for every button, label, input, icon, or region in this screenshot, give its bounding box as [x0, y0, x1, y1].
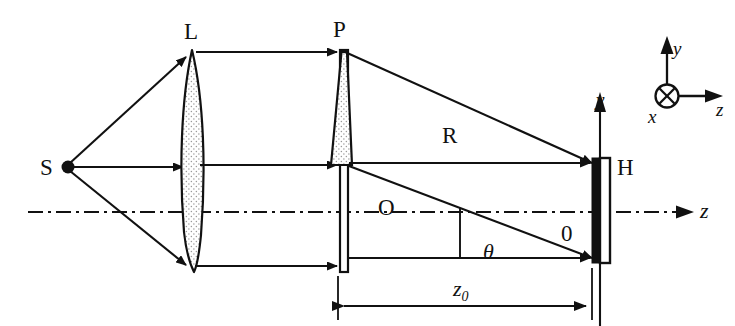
label-origin-zero: 0 — [561, 222, 573, 245]
label-reference-beam-R: R — [442, 124, 457, 147]
label-object-beam-O: O — [378, 196, 395, 219]
figure-canvas: S L P H R O 0 θ z y y x z z0 — [0, 0, 735, 326]
object-plate — [331, 50, 352, 272]
collimating-lens — [181, 50, 203, 272]
label-distance-z0: z0 — [453, 278, 469, 304]
label-inset-y: y — [673, 39, 681, 58]
label-hologram-plane-H: H — [617, 156, 634, 179]
beams-to-hologram — [345, 52, 592, 258]
label-inset-x: x — [648, 107, 656, 126]
hologram-plate — [592, 158, 610, 263]
label-object-plane-P: P — [333, 18, 346, 41]
coordinate-triad — [656, 36, 724, 108]
label-distance-z0-main: z — [453, 276, 462, 301]
reference-beam-R — [345, 52, 592, 163]
label-inset-z: z — [716, 100, 723, 119]
label-plane-y: y — [596, 90, 604, 109]
label-source-S: S — [40, 156, 53, 179]
point-source-dot — [62, 161, 75, 174]
label-distance-z0-sub: 0 — [462, 289, 469, 304]
collimated-rays — [195, 52, 337, 266]
label-axis-z: z — [700, 200, 709, 222]
label-lens-L: L — [184, 20, 198, 43]
label-angle-theta: θ — [483, 241, 494, 263]
source-ray-fan — [70, 57, 186, 265]
